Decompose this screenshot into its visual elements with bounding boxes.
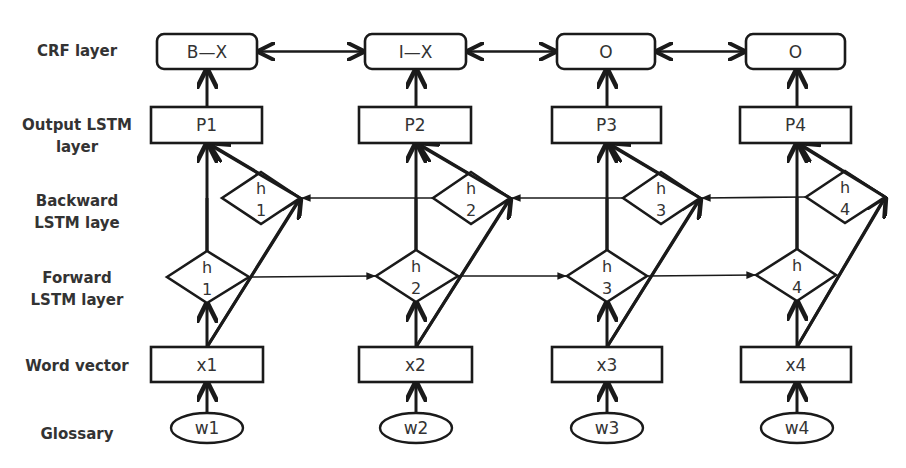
backward-node-index: 4 — [840, 200, 850, 219]
edge-forward-recurrent-1-2 — [249, 276, 375, 277]
output-node-label: P2 — [404, 115, 425, 135]
forward-node-index: 1 — [202, 280, 212, 299]
glossary-label: w3 — [595, 418, 620, 438]
backward-node-index: 1 — [256, 201, 266, 220]
forward-node-index: 3 — [602, 279, 612, 298]
column-2: I—XP2h2h2x2w2 — [359, 34, 510, 443]
backward-node-h: h — [840, 178, 850, 197]
forward-node-h: h — [202, 258, 212, 277]
backward-node-index: 2 — [466, 201, 476, 220]
column-4: OP4h4h4x4w4 — [740, 34, 885, 443]
output-node-label: P1 — [196, 115, 217, 135]
backward-node-h: h — [656, 179, 666, 198]
forward-node-h: h — [792, 256, 802, 275]
word-vector-label: x2 — [405, 355, 426, 375]
glossary-label: w2 — [404, 418, 429, 438]
crf-node-label: O — [599, 42, 612, 62]
word-vector-label: x3 — [597, 355, 618, 375]
crf-node-label: B—X — [187, 42, 228, 62]
edge-backward-recurrent-4-3 — [702, 197, 806, 198]
output-node-label: P3 — [596, 115, 617, 135]
forward-node-h: h — [602, 257, 612, 276]
forward-node-index: 4 — [792, 278, 802, 297]
bilstm-crf-diagram: B—XP1h1h1x1w1I—XP2h2h2x2w2OP3h3h3x3w3OP4… — [0, 0, 906, 468]
nodes-group: B—XP1h1h1x1w1I—XP2h2h2x2w2OP3h3h3x3w3OP4… — [151, 34, 885, 443]
word-vector-label: x4 — [786, 355, 807, 375]
edge-forward-recurrent-3-4 — [647, 275, 755, 276]
column-3: OP3h3h3x3w3 — [552, 34, 700, 443]
backward-node-index: 3 — [656, 201, 666, 220]
backward-node-h: h — [256, 179, 266, 198]
word-vector-label: x1 — [197, 355, 218, 375]
column-1: B—XP1h1h1x1w1 — [151, 34, 300, 443]
glossary-label: w4 — [785, 418, 810, 438]
glossary-label: w1 — [195, 418, 220, 438]
output-node-label: P4 — [785, 115, 806, 135]
crf-node-label: I—X — [399, 42, 433, 62]
crf-node-label: O — [789, 42, 802, 62]
forward-node-index: 2 — [411, 279, 421, 298]
backward-node-h: h — [466, 179, 476, 198]
forward-node-h: h — [411, 257, 421, 276]
